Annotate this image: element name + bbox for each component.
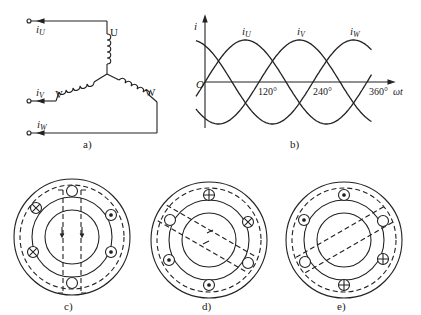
caption-b: b) xyxy=(290,138,299,150)
series-label-iu: iU xyxy=(242,25,252,39)
label-iv: iV xyxy=(36,86,45,100)
slot-cross xyxy=(28,247,39,258)
slot-cross xyxy=(204,190,215,201)
x-axis-label: ωt xyxy=(393,86,403,97)
caption-c: c) xyxy=(64,300,73,312)
slot-empty xyxy=(300,257,311,268)
slot-dot xyxy=(299,215,310,226)
slot-dot xyxy=(204,280,215,291)
winding-u-coil xyxy=(107,34,111,64)
tick-120: 120° xyxy=(258,86,277,97)
caption-a: a) xyxy=(83,138,92,150)
caption-d: d) xyxy=(202,300,211,312)
star-connection-diagram xyxy=(27,19,157,135)
winding-label-w: W xyxy=(145,86,156,98)
series-label-iw: iW xyxy=(350,25,361,39)
label-iw: iW xyxy=(37,118,48,132)
origin-label: O xyxy=(196,78,204,90)
slot-dot xyxy=(106,247,117,258)
stator-diagram-c xyxy=(14,179,130,295)
winding-label-v: V xyxy=(55,88,63,100)
y-axis-arrow-icon xyxy=(203,16,207,22)
terminal-v xyxy=(27,99,31,103)
slot-cross xyxy=(31,203,42,214)
slot-empty xyxy=(165,215,176,226)
x-axis-arrow-icon xyxy=(388,80,394,84)
winding-v-coil xyxy=(59,82,94,94)
winding-label-u: U xyxy=(110,26,118,38)
stator-diagram-e xyxy=(286,182,402,298)
figure-canvas: iU U iV V iW W i O ωt iU iV iW 120° 240°… xyxy=(0,0,421,315)
stator-diagram-d xyxy=(151,182,267,298)
slot-dot xyxy=(106,210,117,221)
slot-dot xyxy=(339,190,350,201)
slot-empty-top xyxy=(67,186,78,197)
slot-empty-bottom xyxy=(67,278,78,289)
caption-e: e) xyxy=(337,300,346,312)
series-label-iv: iV xyxy=(297,25,306,39)
slot-empty xyxy=(243,258,254,269)
slot-empty xyxy=(378,216,389,227)
slot-cross xyxy=(243,217,254,228)
waveform-chart xyxy=(196,16,394,128)
terminal-w xyxy=(27,131,31,135)
slot-cross xyxy=(378,254,389,265)
terminal-u xyxy=(27,19,31,23)
slot-dot xyxy=(164,255,175,266)
tick-360: 360° xyxy=(369,86,388,97)
tick-240: 240° xyxy=(313,86,332,97)
y-axis-label: i xyxy=(194,20,197,32)
label-iu: iU xyxy=(36,23,46,37)
slot-cross xyxy=(339,280,350,291)
